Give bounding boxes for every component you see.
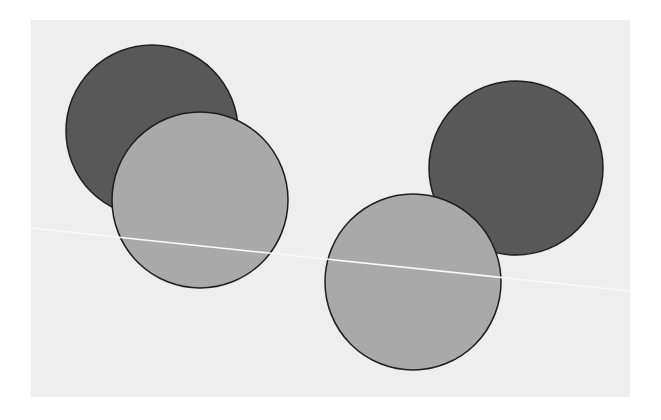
diagram-stage xyxy=(0,0,661,420)
circle-light-right xyxy=(325,194,501,370)
circles-diagram xyxy=(0,0,661,420)
circle-light-left xyxy=(112,112,288,288)
